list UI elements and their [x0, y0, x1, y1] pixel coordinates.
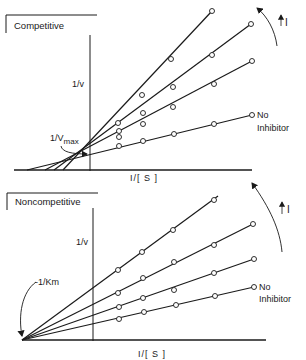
legend-inhibitor: Inhibitor — [259, 294, 291, 304]
inhibitor-symbol: I — [285, 17, 288, 28]
competitive-points — [116, 9, 255, 149]
y-axis-label: 1/v — [72, 79, 85, 89]
inhibition-diagram: Competitive 1/v I/[ S ] 1/Vmax No Inhibi… — [0, 0, 306, 360]
intercept-label: -1/Km — [35, 277, 59, 287]
intercept-label: 1/Vmax — [50, 133, 79, 146]
x-axis-label: I/[ S ] — [130, 173, 158, 183]
competitive-plot: Competitive 1/v I/[ S ] 1/Vmax No Inhibi… — [6, 8, 289, 183]
noncompetitive-plot: Noncompetitive 1/v I/[ S ] -1/Km No Inhi… — [7, 183, 291, 359]
intercept-arrow-icon — [21, 282, 36, 336]
plot-title: Competitive — [14, 20, 64, 31]
legend-inhibitor: Inhibitor — [257, 123, 289, 133]
increase-arrow-icon — [257, 8, 277, 46]
increase-arrow-icon — [252, 183, 282, 252]
legend-no: No — [259, 282, 271, 292]
noncompetitive-lines — [22, 196, 254, 340]
x-axis-label: I/[ S ] — [138, 349, 166, 359]
y-axis-label: 1/v — [76, 237, 89, 247]
inhibitor-symbol: I — [287, 204, 290, 215]
legend-no: No — [257, 110, 269, 120]
plot-title: Noncompetitive — [15, 196, 80, 207]
